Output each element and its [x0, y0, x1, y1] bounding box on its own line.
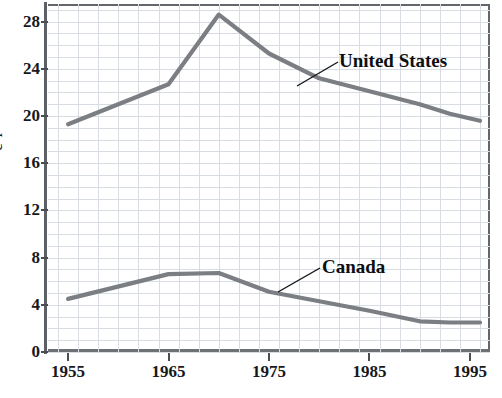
leader-line-canada [278, 268, 320, 292]
series-label-united-states: United States [339, 50, 447, 72]
series-label-canada: Canada [322, 256, 385, 278]
line-chart-figure: c r 0481216202428 19551965197519851995 U… [0, 0, 502, 398]
series-line-canada [68, 273, 480, 323]
